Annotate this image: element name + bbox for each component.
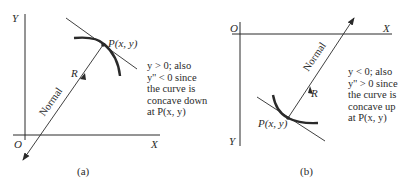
panel-b-note-line: at P(x, y) [348,112,398,124]
panel-a-point-label: P(x, y) [108,38,137,49]
panel-a-note-line: y'' < 0 since [147,72,207,84]
panel-b-note-line: concave up [348,101,398,113]
panel-b-note-line: y'' > 0 since [348,78,398,90]
panel-b-origin-label: O [230,23,238,34]
panel-b-note: y < 0; also y'' > 0 since the curve is c… [348,66,398,124]
panel-a-radius-label: R [71,68,78,79]
panel-b-radius-label: R [311,88,318,99]
panel-b-normal-line [288,18,354,118]
panel-a-x-axis-label: X [151,139,158,150]
panel-a-note-line: y > 0; also [147,60,207,72]
panel-b-point-label: P(x, y) [258,118,287,129]
panel-a-note-line: concave down [147,95,207,107]
panel-a-note-line: the curve is [147,83,207,95]
panel-a-normal-line [23,45,103,160]
panel-a-y-axis-label: Y [12,13,18,24]
panel-b-note-line: the curve is [348,89,398,101]
panel-b-note-line: y < 0; also [348,66,398,78]
panel-a-note: y > 0; also y'' < 0 since the curve is c… [147,60,207,118]
panel-a-point-p [101,43,105,47]
panel-b-caption: (b) [300,165,313,177]
panel-a-graphics [13,14,160,160]
panel-a-note-line: at P(x, y) [147,106,207,118]
panel-a-caption: (a) [77,165,89,177]
panel-b-x-axis-label: X [383,23,390,34]
panel-b-y-axis-label: Y [229,136,235,147]
panel-a-origin-label: O [14,139,22,150]
